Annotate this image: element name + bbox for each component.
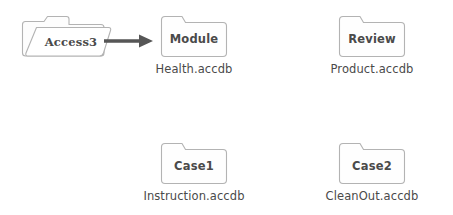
flow-arrow [103, 33, 155, 53]
case1-folder[interactable]: Case1 Instruction.accdb [160, 140, 228, 185]
folder-title: Case1 [160, 140, 228, 185]
source-folder-title: Access3 [18, 13, 114, 61]
folder-caption: Instruction.accdb [143, 189, 244, 203]
folder-caption: Product.accdb [331, 62, 414, 76]
folder-title: Case2 [338, 140, 406, 185]
folder-icon: Case1 [160, 140, 228, 185]
folder-title: Module [160, 13, 228, 58]
folder-icon: Review [338, 13, 406, 58]
review-folder[interactable]: Review Product.accdb [338, 13, 406, 58]
source-folder[interactable]: Access3 [18, 13, 114, 61]
folder-icon: Case2 [338, 140, 406, 185]
case2-folder[interactable]: Case2 CleanOut.accdb [338, 140, 406, 185]
module-folder[interactable]: Module Health.accdb [160, 13, 228, 58]
folder-flow-diagram: Access3 Module Health.accdb Review Produ… [0, 0, 453, 215]
folder-caption: Health.accdb [156, 62, 233, 76]
folder-icon: Module [160, 13, 228, 58]
open-folder-icon: Access3 [18, 13, 114, 61]
folder-caption: CleanOut.accdb [326, 189, 419, 203]
folder-title: Review [338, 13, 406, 58]
